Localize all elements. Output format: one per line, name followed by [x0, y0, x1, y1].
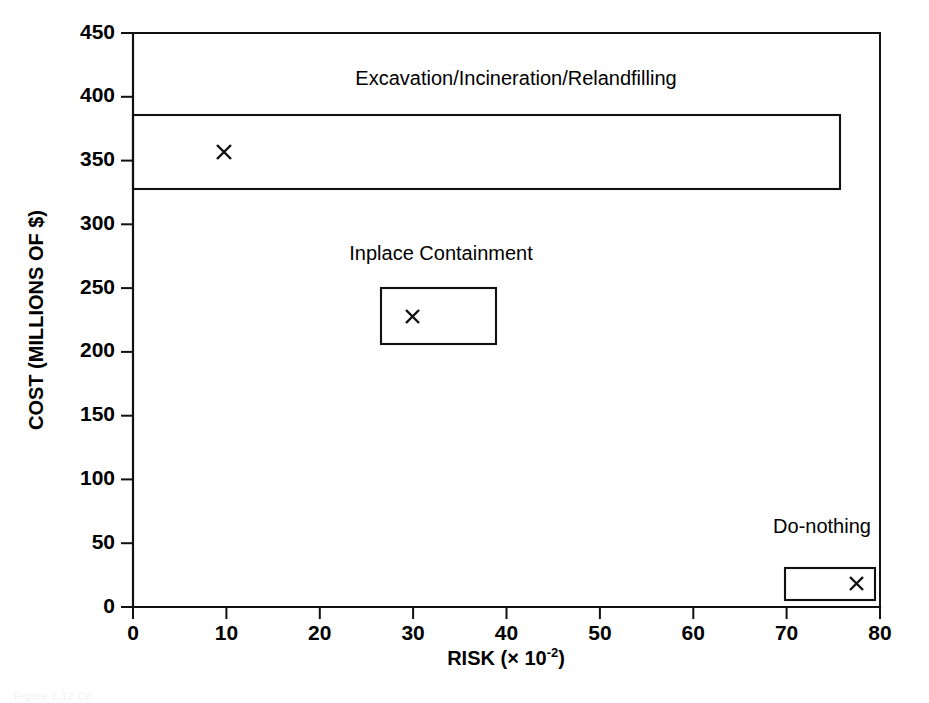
x-tick-label-10: 10: [215, 621, 238, 644]
x-axis-title-exponent: -2: [547, 645, 559, 660]
x-tick-label-80: 80: [868, 621, 891, 644]
data-point-marker-inplace: [406, 310, 419, 323]
y-tick-label-50: 50: [92, 530, 115, 553]
y-tick-label-0: 0: [103, 594, 115, 617]
region-excavation-incineration-relandfilling: Excavation/Incineration/Relandfilling: [133, 67, 840, 189]
x-tick-label-30: 30: [401, 621, 424, 644]
x-tick-label-40: 40: [495, 621, 518, 644]
y-tick-label-450: 450: [80, 20, 115, 43]
region-box-inplace: [381, 288, 496, 344]
x-tick-label-50: 50: [588, 621, 611, 644]
y-tick-label-200: 200: [80, 338, 115, 361]
y-tick-label-100: 100: [80, 466, 115, 489]
region-label-inplace: Inplace Containment: [349, 242, 533, 264]
x-tick-label-0: 0: [127, 621, 139, 644]
data-point-marker-do-nothing: [850, 577, 863, 590]
y-tick-label-250: 250: [80, 275, 115, 298]
y-tick-label-300: 300: [80, 211, 115, 234]
y-tick-label-350: 350: [80, 147, 115, 170]
x-axis-title-base: RISK (× 10: [447, 647, 546, 669]
figure-caption-fragment: Figure 1.12 Co: [14, 690, 92, 702]
y-axis-ticks: [121, 33, 133, 607]
x-tick-label-60: 60: [682, 621, 705, 644]
x-tick-label-20: 20: [308, 621, 331, 644]
region-label-do-nothing: Do-nothing: [773, 515, 871, 537]
y-tick-label-150: 150: [80, 402, 115, 425]
x-axis-tick-labels: 0 10 20 30 40 50 60 70 80: [127, 621, 892, 644]
x-axis-ticks: [133, 607, 880, 619]
y-axis-title: COST (MILLIONS OF $): [25, 210, 47, 430]
y-axis-tick-labels: 450 400 350 300 250 200 150 100 50 0: [80, 20, 115, 617]
data-point-marker-excavation: [217, 145, 231, 159]
x-axis-title: RISK (× 10-2): [447, 645, 565, 669]
x-tick-label-70: 70: [775, 621, 798, 644]
plot-frame: [133, 33, 880, 607]
region-box-do-nothing: [785, 568, 875, 600]
x-axis-title-tail: ): [558, 647, 565, 669]
region-inplace-containment: Inplace Containment: [349, 242, 533, 344]
region-label-excavation: Excavation/Incineration/Relandfilling: [355, 67, 676, 89]
chart-figure: 450 400 350 300 250 200 150 100 50 0 0: [0, 0, 929, 703]
cost-risk-scatter-chart: 450 400 350 300 250 200 150 100 50 0 0: [0, 0, 929, 703]
region-do-nothing: Do-nothing: [773, 515, 875, 600]
region-box-excavation: [133, 115, 840, 189]
y-tick-label-400: 400: [80, 83, 115, 106]
